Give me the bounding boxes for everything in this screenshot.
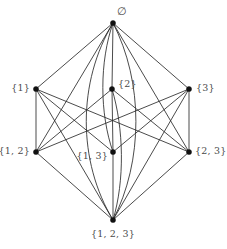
node-label-s123: {1, 2, 3}	[91, 229, 135, 239]
vertex-s1[interactable]	[33, 86, 38, 91]
lattice-diagram: ∅{1}{2}{3}{1, 2}{1, 3}{2, 3}{1, 2, 3}	[0, 0, 227, 249]
edge-layer	[36, 23, 189, 220]
node-label-s23: {2, 3}	[195, 146, 226, 156]
node-label-s12: {1, 2}	[0, 146, 30, 156]
node-label-s2: {2}	[118, 79, 137, 89]
edge-empty-s123	[113, 23, 136, 220]
vertex-s13[interactable]	[110, 149, 115, 154]
vertex-s2[interactable]	[109, 86, 114, 91]
node-label-s3: {3}	[196, 83, 215, 93]
vertex-s3[interactable]	[186, 86, 191, 91]
edge-empty-s1	[36, 23, 113, 89]
vertex-s12[interactable]	[33, 149, 38, 154]
edge-s23-s123	[113, 152, 189, 220]
edge-s12-s123	[36, 152, 113, 220]
lattice-edges-canvas	[0, 0, 227, 249]
vertex-s23[interactable]	[186, 149, 191, 154]
edge-s3-s123	[113, 89, 189, 220]
edge-empty-s2	[112, 23, 113, 89]
node-label-s13: {1, 3}	[77, 151, 108, 161]
node-label-s1: {1}	[11, 83, 30, 93]
node-label-empty: ∅	[117, 6, 127, 17]
edge-empty-s12	[36, 23, 113, 152]
vertex-s123[interactable]	[110, 217, 115, 222]
vertex-empty[interactable]	[110, 20, 115, 25]
